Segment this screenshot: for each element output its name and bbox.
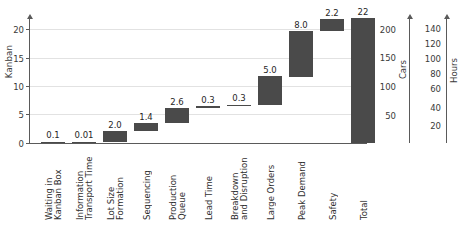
gridline-10 bbox=[29, 86, 367, 87]
y-tick-label-10: 10 bbox=[6, 82, 24, 92]
bar-value-peak-demand: 8.0 bbox=[285, 20, 317, 30]
bar-lead-time bbox=[196, 106, 220, 108]
x-label-lead-time: Lead Time bbox=[205, 148, 214, 220]
x-label-breakdown-and-disruption: Breakdown and Disruption bbox=[231, 148, 249, 220]
y-tick-mark-15 bbox=[26, 58, 29, 59]
hours-tick-label-40: 40 bbox=[419, 103, 441, 113]
x-label-production-queue: Production Queue bbox=[169, 148, 187, 220]
y-tick-label-0: 0 bbox=[6, 139, 24, 149]
y-tick-label-5: 5 bbox=[6, 110, 24, 120]
bar-value-waiting-in-kanban-box: 0.1 bbox=[37, 130, 69, 140]
bar-value-lot-size-formation: 2.0 bbox=[99, 120, 131, 130]
cars-tick-label-100: 100 bbox=[374, 82, 396, 92]
hours-tick-label-80: 80 bbox=[419, 69, 441, 79]
bar-information-transport-time bbox=[72, 142, 96, 143]
hours-tick-label-60: 60 bbox=[419, 84, 441, 94]
bar-production-queue bbox=[165, 108, 189, 123]
hours-axis-title: Hours bbox=[449, 58, 459, 83]
bar-value-information-transport-time: 0.01 bbox=[66, 130, 102, 140]
x-label-waiting-in-kanban-box: Waiting in Kanban Box bbox=[45, 148, 63, 220]
hours-tick-label-20: 20 bbox=[419, 121, 441, 131]
y-tick-label-15: 15 bbox=[6, 54, 24, 64]
bar-total bbox=[351, 18, 375, 143]
y-tick-mark-20 bbox=[26, 29, 29, 30]
x-label-information-transport-time: Information Transport Time bbox=[76, 148, 94, 220]
y-tick-mark-10 bbox=[26, 86, 29, 87]
bar-breakdown-and-disruption bbox=[227, 105, 251, 107]
x-axis-spine bbox=[29, 143, 367, 144]
bar-waiting-in-kanban-box bbox=[41, 142, 65, 144]
cars-axis-arrow-icon bbox=[407, 14, 413, 19]
x-label-sequencing: Sequencing bbox=[143, 148, 152, 220]
bar-value-breakdown-and-disruption: 0.3 bbox=[223, 93, 255, 103]
y-tick-mark-5 bbox=[26, 114, 29, 115]
x-label-lot-size-formation: Lot Size Formation bbox=[107, 148, 125, 220]
waterfall-chart: Kanban 0 5 10 15 20 0.1 0.01 2.0 1.4 2.6… bbox=[0, 0, 461, 225]
bar-safety bbox=[320, 19, 344, 32]
y-tick-label-20: 20 bbox=[6, 25, 24, 35]
cars-tick-label-200: 200 bbox=[374, 25, 396, 35]
bar-value-large-orders: 5.0 bbox=[254, 65, 286, 75]
x-label-peak-demand: Peak Demand bbox=[298, 148, 307, 220]
gridline-15 bbox=[29, 58, 367, 59]
bar-value-production-queue: 2.6 bbox=[161, 97, 193, 107]
bar-value-safety: 2.2 bbox=[316, 8, 348, 18]
cars-tick-label-50: 50 bbox=[374, 111, 396, 121]
y-tick-mark-0 bbox=[26, 143, 29, 144]
cars-axis-spine bbox=[409, 19, 410, 143]
cars-axis-title: Cars bbox=[398, 60, 408, 79]
hours-tick-label-100: 100 bbox=[419, 54, 441, 64]
y-axis-arrow-icon bbox=[27, 14, 33, 19]
bar-value-sequencing: 1.4 bbox=[130, 112, 162, 122]
hours-axis-arrow-icon bbox=[444, 14, 450, 19]
hours-tick-label-120: 120 bbox=[419, 39, 441, 49]
x-label-safety: Safety bbox=[329, 148, 338, 220]
bar-peak-demand bbox=[289, 31, 313, 77]
gridline-5 bbox=[29, 114, 367, 115]
x-label-large-orders: Large Orders bbox=[267, 148, 276, 220]
y-axis-spine bbox=[29, 19, 30, 144]
bar-value-lead-time: 0.3 bbox=[192, 95, 224, 105]
hours-tick-label-140: 140 bbox=[419, 24, 441, 34]
bar-lot-size-formation bbox=[103, 131, 127, 142]
hours-axis-spine bbox=[446, 19, 447, 143]
bar-large-orders bbox=[258, 76, 282, 105]
cars-tick-label-150: 150 bbox=[374, 53, 396, 63]
bar-sequencing bbox=[134, 123, 158, 131]
x-label-total: Total bbox=[360, 148, 369, 220]
bar-value-total: 22 bbox=[347, 7, 379, 17]
